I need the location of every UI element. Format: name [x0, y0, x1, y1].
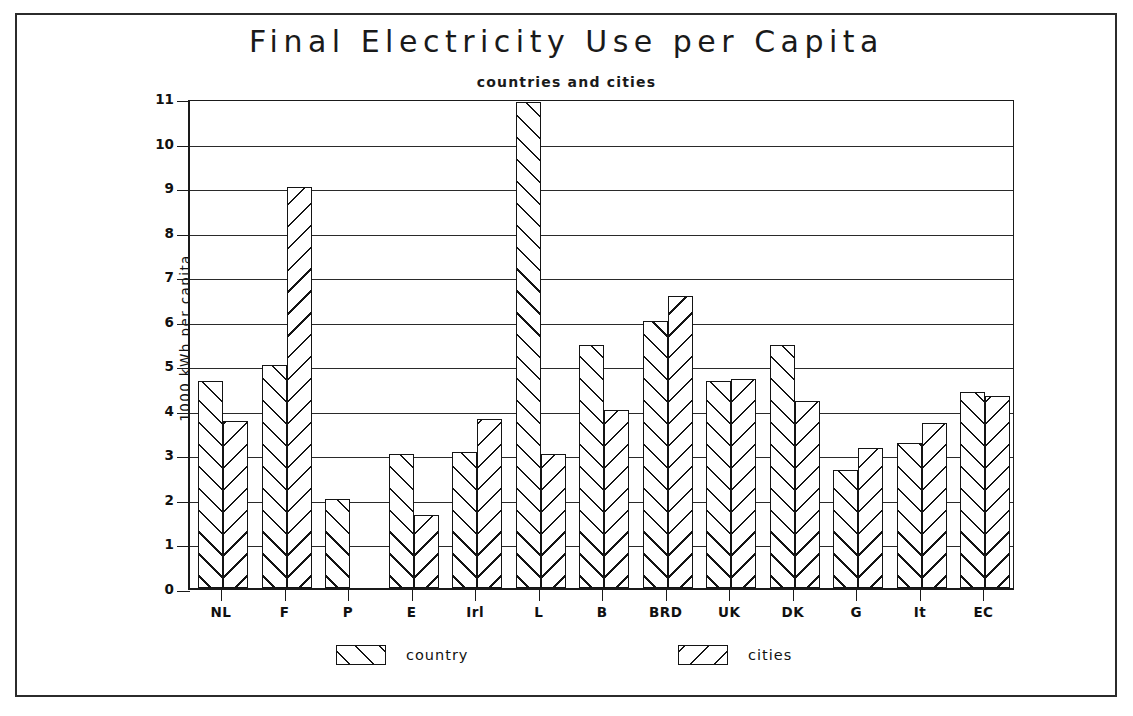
- bar-cities-UK: [731, 379, 756, 588]
- forward-slash-hatch-swatch: [336, 645, 386, 665]
- bar-cities-G: [858, 448, 883, 588]
- y-axis-tick: [177, 235, 190, 236]
- x-axis-tick: [666, 590, 667, 601]
- bar-country-B: [579, 345, 604, 588]
- x-axis-tick: [475, 590, 476, 601]
- x-axis-tick: [856, 590, 857, 601]
- y-axis-tick-label: 9: [140, 182, 174, 196]
- x-axis-tick: [729, 590, 730, 601]
- y-axis-tick: [177, 190, 190, 191]
- bar-country-L: [516, 102, 541, 588]
- bar-country-EC: [960, 392, 985, 588]
- y-axis-tick: [177, 413, 190, 414]
- y-axis-tick-label: 6: [140, 316, 174, 330]
- x-axis-tick-label: UK: [699, 604, 759, 620]
- bar-country-G: [833, 470, 858, 588]
- bar-country-P: [325, 499, 350, 588]
- legend-label: cities: [748, 647, 792, 663]
- x-axis-tick-label: BRD: [636, 604, 696, 620]
- x-axis-tick-label: P: [318, 604, 378, 620]
- chart-title: Final Electricity Use per Capita: [0, 24, 1133, 59]
- y-axis-tick-label: 1: [140, 538, 174, 552]
- bar-country-It: [897, 443, 922, 588]
- x-axis-tick-labels: NLFPEIrlLBBRDUKDKGItEC: [188, 604, 1014, 628]
- bar-cities-B: [604, 410, 629, 588]
- y-axis-tick: [177, 101, 190, 102]
- bar-country-UK: [706, 381, 731, 588]
- y-axis-tick-label: 10: [140, 138, 174, 152]
- x-axis-tick: [285, 590, 286, 601]
- y-axis-tick: [177, 279, 190, 280]
- y-axis-tick-label: 5: [140, 360, 174, 374]
- y-axis-tick-label: 2: [140, 494, 174, 508]
- x-axis-tick: [983, 590, 984, 601]
- bar-cities-BRD: [668, 296, 693, 588]
- chart-page: Final Electricity Use per Capita countri…: [0, 0, 1133, 716]
- y-axis-tick-label: 4: [140, 405, 174, 419]
- legend-item-country: country: [336, 645, 468, 665]
- bar-country-NL: [198, 381, 223, 588]
- x-axis-tick-label: L: [509, 604, 569, 620]
- y-axis-tick: [177, 368, 190, 369]
- x-axis-tick-label: Irl: [445, 604, 505, 620]
- bar-cities-NL: [223, 421, 248, 588]
- x-axis-tick: [920, 590, 921, 601]
- y-axis-tick: [177, 502, 190, 503]
- legend-item-cities: cities: [678, 645, 792, 665]
- bar-country-E: [389, 454, 414, 588]
- chart-subtitle: countries and cities: [0, 74, 1133, 90]
- bar-cities-Irl: [477, 419, 502, 588]
- x-axis-tick-label: F: [255, 604, 315, 620]
- y-axis-tick: [177, 457, 190, 458]
- bar-cities-L: [541, 454, 566, 588]
- bar-cities-EC: [985, 396, 1010, 588]
- back-slash-hatch-swatch: [678, 645, 728, 665]
- x-axis-tick-label: G: [826, 604, 886, 620]
- bar-country-F: [262, 365, 287, 588]
- y-axis-tick: [177, 146, 190, 147]
- y-axis-tick: [177, 546, 190, 547]
- bar-country-Irl: [452, 452, 477, 588]
- x-axis-tick-label: EC: [953, 604, 1013, 620]
- chart-legend: countrycities: [188, 645, 1014, 679]
- y-axis-tick-label: 7: [140, 271, 174, 285]
- x-axis-tick: [602, 590, 603, 601]
- x-axis-tick-label: NL: [191, 604, 251, 620]
- bar-country-DK: [770, 345, 795, 588]
- x-axis-tick-label: E: [382, 604, 442, 620]
- bar-cities-E: [414, 515, 439, 589]
- x-axis-tick: [221, 590, 222, 601]
- y-axis-tick-label: 3: [140, 449, 174, 463]
- x-axis-tick: [539, 590, 540, 601]
- y-axis-tick-labels: 1000 kWh per capita 01234567891011: [134, 100, 174, 590]
- x-axis-tick: [412, 590, 413, 601]
- bar-cities-DK: [795, 401, 820, 588]
- legend-label: country: [406, 647, 468, 663]
- bar-country-BRD: [643, 321, 668, 588]
- x-axis-tick-label: DK: [763, 604, 823, 620]
- x-axis-tick-label: B: [572, 604, 632, 620]
- bar-cities-It: [922, 423, 947, 588]
- x-axis-tick: [348, 590, 349, 601]
- y-axis-tick-label: 0: [140, 583, 174, 597]
- x-axis-tick: [793, 590, 794, 601]
- y-axis-tick: [177, 324, 190, 325]
- x-axis-ticks: [188, 590, 1014, 602]
- bar-cities-F: [287, 187, 312, 588]
- bar-series-container: [190, 101, 1013, 588]
- plot-area: [188, 100, 1014, 590]
- y-axis-tick-label: 8: [140, 227, 174, 241]
- y-axis-tick-label: 11: [140, 93, 174, 107]
- x-axis-tick-label: It: [890, 604, 950, 620]
